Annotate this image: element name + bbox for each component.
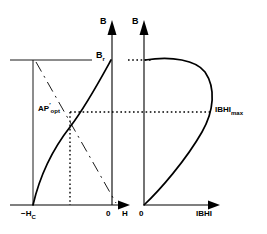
figure-canvas xyxy=(0,0,267,234)
left-origin-label: 0 xyxy=(106,210,110,218)
right-origin-label: 0 xyxy=(139,210,143,218)
bh-curve-figure: B B Br AP′opt IBHImax −HC 0 H 0 IBHI xyxy=(0,0,267,234)
left-b-axis-arrow-icon xyxy=(108,20,117,35)
h-axis-label: H xyxy=(122,210,128,218)
coercivity-label-sub: C xyxy=(31,214,35,220)
coercivity-label-text: −H xyxy=(21,209,31,218)
remanence-label-sub: r xyxy=(103,56,105,62)
max-energy-product-sub: max xyxy=(231,110,243,116)
load-line xyxy=(36,62,116,203)
coercivity-label: −HC xyxy=(21,210,36,220)
left-b-axis-label: B xyxy=(100,17,107,26)
max-energy-product-text: IBHI xyxy=(215,105,231,114)
operating-point-label-sub: opt xyxy=(51,108,60,114)
energy-product-curve xyxy=(144,59,212,206)
operating-point-label-text: AP xyxy=(38,104,49,113)
demagnetization-curve xyxy=(33,60,111,205)
remanence-label: Br xyxy=(96,51,105,62)
operating-point-label: AP′opt xyxy=(38,102,60,114)
right-b-axis-arrow-icon xyxy=(140,20,149,35)
ibhi-axis-label: IBHI xyxy=(196,210,212,218)
right-b-axis-label: B xyxy=(132,17,139,26)
max-energy-product-label: IBHImax xyxy=(215,106,243,116)
